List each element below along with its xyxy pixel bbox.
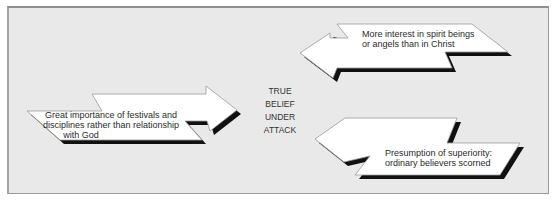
center-label-line-2: BELIEF — [255, 98, 305, 111]
arrow-top-right-text: More interest in spirit beings or angels… — [362, 29, 475, 49]
center-label-line-3: UNDER — [255, 111, 305, 124]
center-label-line-4: ATTACK — [255, 124, 305, 137]
center-label-line-1: TRUE — [255, 85, 305, 98]
center-label: TRUE BELIEF UNDER ATTACK — [255, 85, 305, 137]
arrow-left-line-3: with God — [36, 130, 186, 140]
arrow-top-right-line-2: or angels than in Christ — [362, 39, 475, 49]
arrow-bottom-right-line-1: Presumption of superiority: — [385, 148, 492, 158]
arrow-top-right-line-1: More interest in spirit beings — [362, 29, 475, 39]
arrow-left-line-2: disciplines rather than relationship — [36, 120, 186, 130]
arrow-left-text: Great importance of festivals and discip… — [36, 110, 186, 140]
arrow-left-line-1: Great importance of festivals and — [36, 110, 186, 120]
arrow-bottom-right-text: Presumption of superiority: ordinary bel… — [385, 148, 492, 168]
arrow-bottom-right-line-2: ordinary believers scorned — [385, 158, 492, 168]
